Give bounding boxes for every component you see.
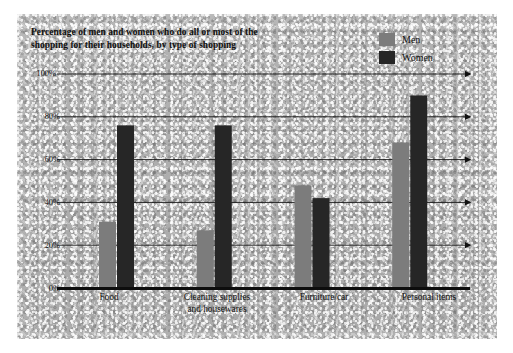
bar-women-furniture-car <box>313 198 330 288</box>
bar-women-personal-items <box>410 95 427 288</box>
bar-women-food <box>117 125 134 288</box>
chart-plot-area <box>0 0 513 353</box>
bar-men-personal-items <box>392 142 409 288</box>
bar-men-food <box>99 222 116 288</box>
chart-bars <box>99 95 427 288</box>
bar-men-furniture-car <box>295 185 312 288</box>
bar-men-cleaning-supplies-and-housewares <box>197 230 214 288</box>
chart-figure: Percentage of men and women who do all o… <box>0 0 513 353</box>
bar-women-cleaning-supplies-and-housewares <box>215 125 232 288</box>
